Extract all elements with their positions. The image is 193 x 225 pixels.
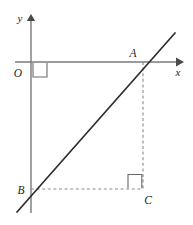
origin-right-angle-mark: [33, 63, 47, 77]
point-label-a: A: [128, 47, 137, 59]
point-label-o: O: [14, 67, 23, 79]
y-axis-label: y: [17, 12, 23, 24]
geometry-figure-container: y x O A B C: [0, 0, 193, 225]
vertex-c-right-angle-mark: [128, 175, 142, 189]
geometry-figure-svg: y x O A B C: [0, 0, 193, 225]
main-line-segment: [17, 33, 175, 212]
y-axis-arrow-icon: [27, 14, 35, 21]
x-axis-label: x: [175, 66, 181, 78]
point-label-b: B: [17, 184, 24, 196]
point-label-c: C: [144, 194, 152, 206]
